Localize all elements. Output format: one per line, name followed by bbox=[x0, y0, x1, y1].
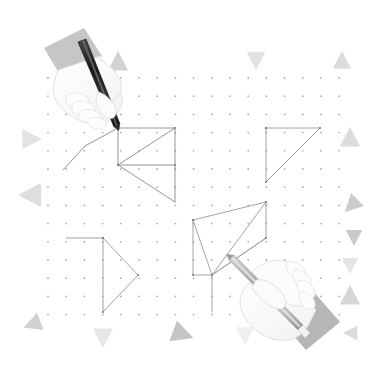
triangle-right-lower-up bbox=[340, 285, 360, 305]
grid-dot bbox=[84, 150, 86, 152]
grid-dot bbox=[229, 132, 231, 134]
square-with-diagonal-top-left-line-2 bbox=[63, 146, 85, 170]
grid-dot bbox=[175, 296, 177, 298]
grid-dot bbox=[338, 114, 340, 116]
grid-dot bbox=[47, 277, 49, 279]
grid-dot bbox=[320, 186, 322, 188]
grid-dot bbox=[247, 186, 249, 188]
grid-dot bbox=[229, 150, 231, 152]
grid-dot bbox=[229, 223, 231, 225]
grid-dot bbox=[156, 277, 158, 279]
grid-dot bbox=[338, 205, 340, 207]
illustration-canvas: Hands drawing geometric shapes on a dot … bbox=[0, 0, 379, 378]
triangle-left-upper-right bbox=[22, 129, 42, 149]
grid-dot bbox=[47, 205, 49, 207]
grid-dot bbox=[120, 77, 122, 79]
grid-dot bbox=[156, 241, 158, 243]
grid-dot bbox=[47, 77, 49, 79]
grid-dot bbox=[211, 168, 213, 170]
grid-dot bbox=[47, 132, 49, 134]
grid-dot bbox=[229, 77, 231, 79]
grid-dot bbox=[138, 314, 140, 316]
grid-dot bbox=[302, 77, 304, 79]
grid-dot bbox=[320, 223, 322, 225]
grid-dot bbox=[284, 150, 286, 152]
grid-dot bbox=[284, 223, 286, 225]
grid-dot bbox=[247, 241, 249, 243]
grid-dot bbox=[284, 132, 286, 134]
grid-dot bbox=[138, 296, 140, 298]
grid-dot bbox=[229, 168, 231, 170]
grid-dot bbox=[320, 277, 322, 279]
grid-dot bbox=[266, 186, 268, 188]
grid-dot bbox=[320, 205, 322, 207]
grid-dot bbox=[102, 205, 104, 207]
grid-dot bbox=[102, 132, 104, 134]
grid-dot bbox=[193, 132, 195, 134]
square-with-diagonal-top-left bbox=[63, 127, 176, 202]
grid-dot bbox=[120, 277, 122, 279]
compound-polygon-bottom-center-vertex bbox=[192, 274, 194, 276]
grid-dot bbox=[211, 77, 213, 79]
grid-dot bbox=[211, 223, 213, 225]
grid-dot bbox=[120, 186, 122, 188]
grid-dot bbox=[266, 95, 268, 97]
grid-dot bbox=[284, 77, 286, 79]
right-triangle-top-right-vertex bbox=[265, 181, 267, 183]
grid-dot bbox=[211, 314, 213, 316]
grid-dot bbox=[266, 241, 268, 243]
grid-dot bbox=[65, 314, 67, 316]
compound-polygon-bottom-center-vertex bbox=[211, 274, 213, 276]
grid-dot bbox=[284, 114, 286, 116]
compound-polygon-bottom-center-outline bbox=[193, 202, 266, 275]
grid-dot bbox=[193, 314, 195, 316]
grid-dot bbox=[338, 277, 340, 279]
grid-dot bbox=[138, 114, 140, 116]
right-triangle-top-right-vertex bbox=[319, 127, 321, 129]
square-with-diagonal-top-left-vertex bbox=[174, 164, 176, 166]
grid-dot bbox=[65, 223, 67, 225]
grid-dot bbox=[320, 77, 322, 79]
grid-dot bbox=[84, 223, 86, 225]
grid-dot bbox=[338, 77, 340, 79]
right-triangle-top-right-outline bbox=[266, 128, 320, 182]
grid-dot bbox=[156, 150, 158, 152]
triangle-top-right-up bbox=[333, 51, 351, 69]
grid-dot bbox=[193, 296, 195, 298]
compound-polygon-bottom-center-vertex bbox=[265, 201, 267, 203]
grid-dot bbox=[138, 259, 140, 261]
grid-dot bbox=[247, 77, 249, 79]
grid-dot bbox=[120, 314, 122, 316]
triangle-left-lower-left bbox=[18, 183, 41, 207]
grid-dot bbox=[84, 314, 86, 316]
grid-dot bbox=[266, 259, 268, 261]
square-with-diagonal-top-left-line-1 bbox=[85, 128, 118, 146]
grid-dot bbox=[47, 114, 49, 116]
grid-dot bbox=[120, 223, 122, 225]
grid-dot bbox=[156, 223, 158, 225]
grid-dot bbox=[302, 223, 304, 225]
right-pointing-triangle-bottom-left-outline bbox=[103, 238, 138, 312]
right-triangle-top-right bbox=[265, 127, 321, 183]
grid-dot bbox=[84, 186, 86, 188]
grid-dot bbox=[320, 296, 322, 298]
grid-dot bbox=[138, 77, 140, 79]
grid-dot bbox=[302, 205, 304, 207]
grid-dot bbox=[211, 205, 213, 207]
square-with-diagonal-top-left-vertex bbox=[174, 127, 176, 129]
grid-dot bbox=[338, 168, 340, 170]
grid-dot bbox=[84, 132, 86, 134]
grid-dot bbox=[84, 259, 86, 261]
grid-dot bbox=[320, 95, 322, 97]
grid-dot bbox=[175, 114, 177, 116]
grid-dot bbox=[156, 77, 158, 79]
grid-dot bbox=[47, 168, 49, 170]
grid-dot bbox=[284, 241, 286, 243]
grid-dot bbox=[338, 241, 340, 243]
grid-dot bbox=[302, 132, 304, 134]
grid-dot bbox=[175, 241, 177, 243]
grid-dot bbox=[302, 114, 304, 116]
grid-dot bbox=[320, 132, 322, 134]
grid-dot bbox=[120, 241, 122, 243]
grid-dot bbox=[84, 168, 86, 170]
